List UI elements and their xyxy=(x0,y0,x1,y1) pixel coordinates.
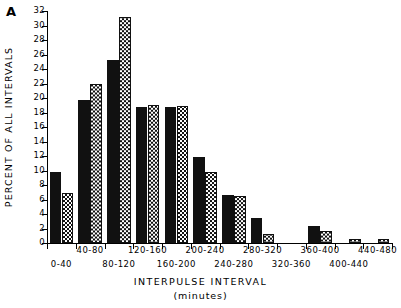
y-tick-label: 14 xyxy=(33,136,45,146)
bar xyxy=(148,105,160,243)
bar xyxy=(205,172,217,243)
y-axis-title: PERCENT OF ALL INTERVALS xyxy=(0,11,16,243)
bar xyxy=(320,231,332,243)
y-tick-label: 20 xyxy=(33,92,45,102)
x-tick-label: 40-80 xyxy=(62,245,118,255)
y-axis-title-text: PERCENT OF ALL INTERVALS xyxy=(3,47,14,207)
y-tick-label: 18 xyxy=(33,107,45,117)
y-tick-label: 24 xyxy=(33,63,45,73)
bar xyxy=(107,60,119,243)
y-tick-label: 26 xyxy=(33,49,45,59)
bar xyxy=(78,100,90,243)
x-tick-label: 440-480 xyxy=(350,245,401,255)
bar xyxy=(177,106,189,243)
x-tick-label: 0-40 xyxy=(33,259,89,269)
bar xyxy=(62,193,74,243)
y-tick-label: 0 xyxy=(39,237,45,247)
x-tick-label: 360-400 xyxy=(292,245,348,255)
y-tick-label: 2 xyxy=(39,223,45,233)
figure-panel-a: A PERCENT OF ALL INTERVALS 0246810121416… xyxy=(0,0,401,308)
y-tick-label: 12 xyxy=(33,150,45,160)
y-tick-label: 6 xyxy=(39,194,45,204)
bar xyxy=(378,239,390,243)
x-tick-label: 280-320 xyxy=(235,245,291,255)
bar xyxy=(222,195,234,243)
y-tick-label: 32 xyxy=(33,5,45,15)
y-tick-label: 16 xyxy=(33,121,45,131)
y-tick-label: 4 xyxy=(39,208,45,218)
x-tick-label: 80-120 xyxy=(91,259,147,269)
y-tick-label: 28 xyxy=(33,34,45,44)
bar xyxy=(193,157,205,243)
x-tick-mark xyxy=(47,244,48,249)
x-tick-label: 200-240 xyxy=(177,245,233,255)
bar xyxy=(90,84,102,244)
x-axis-title-units: (minutes) xyxy=(0,290,401,301)
bar xyxy=(349,239,361,243)
bar xyxy=(234,196,246,243)
y-axis-line xyxy=(47,11,48,244)
y-tick-label: 10 xyxy=(33,165,45,175)
bar xyxy=(119,17,131,243)
x-tick-label: 320-360 xyxy=(263,259,319,269)
y-tick-label: 22 xyxy=(33,78,45,88)
x-tick-label: 400-440 xyxy=(321,259,377,269)
plot-area: 02468101214161820222426283032 xyxy=(47,11,392,243)
x-tick-label: 120-160 xyxy=(120,245,176,255)
bar xyxy=(165,107,177,243)
bar xyxy=(263,234,275,243)
bar xyxy=(251,218,263,243)
bar xyxy=(308,226,320,243)
y-tick-label: 8 xyxy=(39,179,45,189)
bar xyxy=(50,172,62,243)
x-tick-label: 160-200 xyxy=(148,259,204,269)
x-tick-label: 240-280 xyxy=(206,259,262,269)
y-tick-label: 30 xyxy=(33,20,45,30)
x-axis-title: INTERPULSE INTERVAL xyxy=(0,276,401,287)
bar xyxy=(136,107,148,243)
